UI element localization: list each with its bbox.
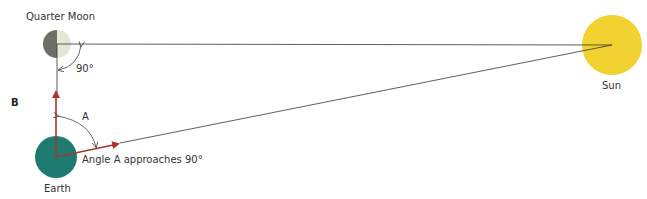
sun-label: Sun (602, 80, 621, 91)
diagram-canvas (0, 0, 647, 199)
angle-a-label: A (82, 111, 89, 122)
angle-a-caption: Angle A approaches 90° (82, 154, 203, 165)
earth-label: Earth (44, 183, 71, 194)
moon-sun-line (57, 44, 612, 45)
earth-sun-line (120, 45, 612, 143)
diagram-stage: B Quarter Moon 90° A Angle A approaches … (0, 0, 647, 199)
panel-label: B (11, 97, 19, 108)
moon-label: Quarter Moon (26, 11, 95, 22)
right-angle-label: 90° (76, 63, 94, 74)
